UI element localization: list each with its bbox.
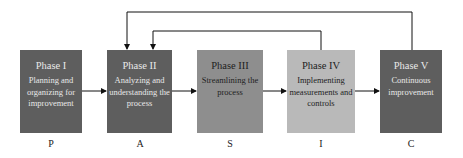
- feedback-phase4-to-phase2: [153, 31, 321, 50]
- phase-2-desc: Analyzing and understanding the process: [107, 75, 172, 110]
- phase-1-letter: P: [41, 138, 61, 149]
- phase-3-box: Phase III Streamlining the process: [197, 50, 263, 133]
- phase-3-letter: S: [220, 138, 240, 149]
- phase-5-desc: Continuous improvement: [380, 75, 442, 98]
- phase-3-title: Phase III: [197, 59, 263, 72]
- phase-2-title: Phase II: [107, 59, 172, 72]
- phase-4-letter: I: [311, 138, 331, 149]
- phase-5-title: Phase V: [380, 59, 442, 72]
- phase-4-desc: Implementing measurements and controls: [287, 75, 355, 110]
- phase-1-box: Phase I Planning and organizing for impr…: [20, 50, 82, 133]
- phase-5-box: Phase V Continuous improvement: [380, 50, 442, 133]
- phase-1-title: Phase I: [20, 59, 82, 72]
- phase-4-box: Phase IV Implementing measurements and c…: [287, 50, 355, 133]
- phase-2-box: Phase II Analyzing and understanding the…: [107, 50, 172, 133]
- phase-2-letter: A: [130, 138, 150, 149]
- phase-1-desc: Planning and organizing for improvement: [20, 75, 82, 110]
- phase-5-letter: C: [401, 138, 421, 149]
- phase-4-title: Phase IV: [287, 59, 355, 72]
- phase-3-desc: Streamlining the process: [197, 75, 263, 98]
